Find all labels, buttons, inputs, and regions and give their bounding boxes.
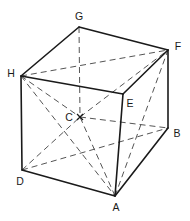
dashed-edge-group: [21, 27, 168, 196]
vertex-label-B: B: [173, 127, 180, 139]
solid-edge-group: [21, 27, 168, 196]
solid-edge-H-D: [21, 76, 22, 170]
vertex-label-H: H: [7, 67, 15, 79]
vertex-label-D: D: [16, 175, 24, 187]
solid-edge-A-B: [115, 128, 168, 196]
dashed-edge-D-B: [22, 128, 168, 170]
dashed-edge-G-C: [79, 27, 80, 117]
vertex-label-E: E: [126, 97, 133, 109]
cube-diagram: G F H E C B D A: [0, 0, 190, 221]
vertex-label-A: A: [112, 201, 119, 213]
dashed-edge-A-C: [80, 117, 115, 196]
solid-edge-H-E: [21, 76, 123, 94]
solid-edge-G-F: [79, 27, 168, 50]
dashed-edge-A-F: [115, 50, 168, 196]
vertex-label-F: F: [175, 40, 181, 52]
solid-edge-E-A: [115, 94, 123, 196]
vertex-label-G: G: [75, 10, 83, 22]
vertex-label-C: C: [65, 111, 73, 123]
dashed-edge-H-A: [21, 76, 115, 196]
vertex-label-group: G F H E C B D A: [7, 10, 181, 213]
cube-svg: G F H E C B D A: [0, 0, 190, 221]
dashed-edge-C-F: [80, 50, 168, 117]
solid-edge-D-A: [22, 170, 115, 196]
solid-edge-H-G: [21, 27, 79, 76]
dashed-edge-C-B: [80, 117, 168, 128]
